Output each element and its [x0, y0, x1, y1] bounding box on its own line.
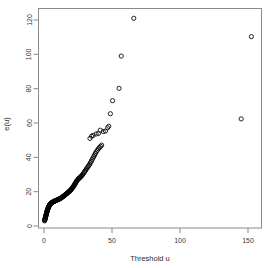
x-axis-title: Threshold u — [130, 254, 170, 263]
x-tick-label: 50 — [108, 237, 116, 244]
x-tick-label: 150 — [242, 237, 254, 244]
chart-canvas: 020406080100120 050100150 Threshold u e(… — [0, 0, 270, 268]
y-tick-label: 40 — [26, 153, 33, 161]
y-tick-label: 80 — [26, 85, 33, 93]
y-tick-label: 0 — [26, 224, 33, 228]
y-tick-label: 120 — [26, 14, 33, 26]
y-tick-label: 20 — [26, 188, 33, 196]
x-tick-label: 100 — [174, 237, 186, 244]
y-tick-label: 100 — [26, 48, 33, 60]
y-axis-title: e(u) — [2, 117, 11, 131]
y-tick-label: 60 — [26, 119, 33, 127]
mean-excess-plot: 020406080100120 050100150 Threshold u e(… — [0, 0, 270, 268]
x-tick-label: 0 — [42, 237, 46, 244]
